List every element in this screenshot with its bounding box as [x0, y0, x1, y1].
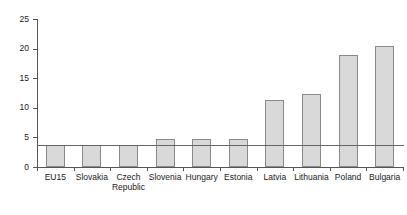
y-axis-tick-label: 10	[0, 103, 29, 112]
x-axis-tick-label-line: EU15	[45, 172, 66, 182]
x-axis-tick	[220, 167, 221, 171]
y-axis-tick-label: 20	[0, 44, 29, 53]
y-axis-tick	[33, 137, 37, 138]
y-axis-tick-label: 5	[0, 133, 29, 142]
x-axis-tick-label-line: Poland	[335, 172, 361, 182]
x-axis-tick	[257, 167, 258, 171]
y-axis-tick	[33, 19, 37, 20]
y-axis-tick-label: 15	[0, 74, 29, 83]
reference-line	[37, 145, 404, 146]
bar	[265, 100, 284, 167]
x-axis-tick-label-line: Bulgaria	[369, 172, 400, 182]
x-axis-tick	[110, 167, 111, 171]
x-axis-tick-label: Bulgaria	[358, 172, 407, 182]
bar	[339, 55, 358, 167]
x-axis-tick	[183, 167, 184, 171]
y-axis-tick	[33, 78, 37, 79]
bar	[156, 139, 175, 167]
y-axis-tick	[33, 108, 37, 109]
x-axis-tick	[330, 167, 331, 171]
bar	[46, 145, 65, 167]
bar	[229, 139, 248, 167]
x-axis-tick	[293, 167, 294, 171]
x-axis-tick	[74, 167, 75, 171]
x-axis-tick	[37, 167, 38, 171]
bar	[375, 46, 394, 167]
x-axis-tick	[403, 167, 404, 171]
x-axis-tick-label-line: Latvia	[264, 172, 287, 182]
bar	[192, 139, 211, 167]
bar	[302, 94, 321, 167]
x-axis-tick-label-line: Czech	[116, 172, 140, 182]
bar	[82, 145, 101, 167]
x-axis-tick	[147, 167, 148, 171]
x-axis-tick	[366, 167, 367, 171]
x-axis-tick-label-line: Republic	[102, 182, 155, 192]
y-axis-tick-label: 25	[0, 15, 29, 24]
bar-chart: 0510152025EU15SlovakiaCzechRepublicSlove…	[0, 0, 407, 215]
bar	[119, 145, 138, 167]
y-axis-tick	[33, 49, 37, 50]
y-axis-tick-label: 0	[0, 163, 29, 172]
